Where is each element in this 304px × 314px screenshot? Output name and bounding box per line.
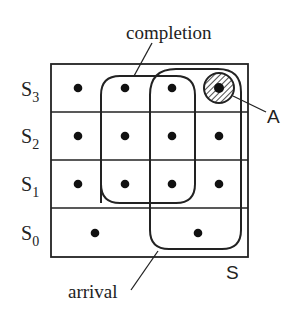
state-dot <box>194 229 203 238</box>
row-s1-states <box>74 180 224 189</box>
a-leader-line <box>233 96 266 112</box>
row-s2-states <box>74 132 224 141</box>
row-label-s0: S0 <box>21 222 39 249</box>
row-s0-states <box>91 229 203 238</box>
state-dot <box>121 84 130 93</box>
row-s3-states <box>74 83 224 93</box>
state-dot <box>74 84 83 93</box>
row-label-s1: S1 <box>21 173 39 200</box>
set-s-label: S <box>226 262 239 283</box>
state-dot <box>74 180 83 189</box>
completion-region <box>101 76 195 203</box>
state-dot <box>121 132 130 141</box>
completion-leader-line <box>134 43 152 76</box>
state-dot <box>215 132 224 141</box>
state-dot <box>91 229 100 238</box>
state-dot <box>168 84 177 93</box>
state-dot <box>121 180 130 189</box>
state-dot <box>168 180 177 189</box>
arrival-label: arrival <box>68 281 118 302</box>
state-dot <box>74 132 83 141</box>
diagram-canvas: completion arrival A S S3 S2 S1 S0 <box>0 0 304 314</box>
highlight-a-label: A <box>267 106 280 127</box>
state-dot-a <box>214 83 224 93</box>
row-label-s3: S3 <box>21 78 39 105</box>
state-dot <box>215 180 224 189</box>
completion-label: completion <box>126 22 212 43</box>
row-label-s2: S2 <box>21 125 39 152</box>
state-dot <box>168 132 177 141</box>
